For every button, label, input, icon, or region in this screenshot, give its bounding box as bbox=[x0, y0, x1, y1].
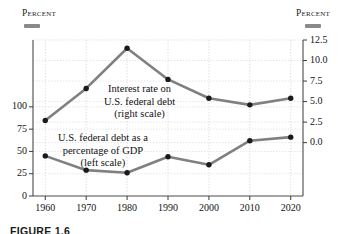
x-tick-label: 2010 bbox=[232, 202, 268, 213]
data-point bbox=[124, 170, 129, 175]
right-tick-label: 5.0 bbox=[310, 95, 323, 106]
data-point bbox=[247, 102, 252, 107]
right-tick-label: 10.0 bbox=[310, 54, 328, 65]
annotation-debt-line3: (left scale) bbox=[58, 157, 148, 170]
x-tick-label: 1980 bbox=[109, 202, 145, 213]
figure-caption: FIGURE 1.6 bbox=[10, 225, 70, 234]
x-tick-label: 1960 bbox=[27, 202, 63, 213]
x-tick-label: 1990 bbox=[150, 202, 186, 213]
annotation-debt-line2: percentage of GDP bbox=[58, 145, 148, 158]
left-tick-label: 0 bbox=[22, 190, 27, 201]
right-tick-label: 0.0 bbox=[310, 136, 323, 147]
left-tick-label: 75 bbox=[17, 123, 27, 134]
right-tick-label: 7.5 bbox=[310, 75, 323, 86]
data-point bbox=[288, 134, 293, 139]
annotation-debt-line1: U.S. federal debt as a bbox=[58, 132, 148, 145]
data-point bbox=[288, 96, 293, 101]
right-tick-label: 12.5 bbox=[310, 34, 328, 45]
data-point bbox=[83, 86, 88, 91]
data-point bbox=[43, 118, 48, 123]
annotation-interest-rate: Interest rate on U.S. federal debt (righ… bbox=[104, 83, 175, 121]
figure-container: Percent Percent 0255075100 0.02.55.07.51… bbox=[0, 0, 338, 234]
left-tick-label: 100 bbox=[12, 100, 27, 111]
data-point bbox=[43, 153, 48, 158]
x-tick-label: 2000 bbox=[191, 202, 227, 213]
data-point bbox=[165, 77, 170, 82]
x-tick-label: 2020 bbox=[273, 202, 309, 213]
data-point bbox=[124, 46, 129, 51]
annotation-interest-line3: (right scale) bbox=[104, 108, 175, 121]
data-point bbox=[206, 96, 211, 101]
left-tick-label: 50 bbox=[17, 145, 27, 156]
annotation-debt-gdp: U.S. federal debt as a percentage of GDP… bbox=[58, 132, 148, 170]
left-tick-label: 25 bbox=[17, 167, 27, 178]
annotation-interest-line1: Interest rate on bbox=[104, 83, 175, 96]
data-point bbox=[247, 138, 252, 143]
data-point bbox=[165, 154, 170, 159]
x-tick-label: 1970 bbox=[68, 202, 104, 213]
annotation-interest-line2: U.S. federal debt bbox=[104, 96, 175, 109]
right-tick-label: 2.5 bbox=[310, 116, 323, 127]
data-point bbox=[206, 162, 211, 167]
